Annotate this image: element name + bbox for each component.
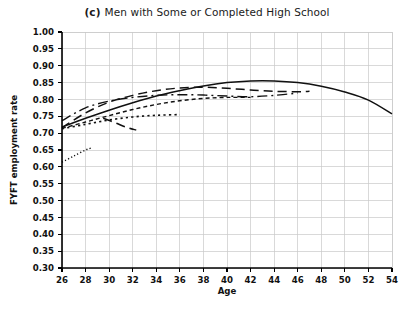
x-tick-label: 44 xyxy=(268,275,280,285)
x-tick-label: 28 xyxy=(80,275,92,285)
y-tick-label: 0.60 xyxy=(33,162,54,172)
y-tick-label: 0.80 xyxy=(33,95,54,105)
y-tick-label: 0.40 xyxy=(33,229,54,239)
y-tick-label: 0.35 xyxy=(33,246,54,256)
y-tick-label: 0.65 xyxy=(33,145,54,155)
series-line xyxy=(62,87,310,127)
y-tick-label: 1.00 xyxy=(33,27,54,37)
x-tick-label: 38 xyxy=(197,275,209,285)
y-tick-label: 0.75 xyxy=(33,111,54,121)
y-axis-label: FYFT employment rate xyxy=(9,95,19,205)
x-tick-label: 42 xyxy=(245,275,257,285)
y-tick-label: 0.50 xyxy=(33,196,54,206)
x-tick-label: 36 xyxy=(174,275,186,285)
y-tick-label: 0.55 xyxy=(33,179,54,189)
x-tick-label: 54 xyxy=(386,275,398,285)
y-tick-label: 0.70 xyxy=(33,128,54,138)
x-tick-label: 46 xyxy=(292,275,304,285)
chart-figure: (c)Men with Some or Completed High Schoo… xyxy=(0,0,414,310)
x-tick-label: 50 xyxy=(339,275,351,285)
y-tick-label: 0.85 xyxy=(33,78,54,88)
gridlines xyxy=(62,32,392,268)
y-tick-label: 0.45 xyxy=(33,213,54,223)
y-tick-label: 0.30 xyxy=(33,263,54,273)
y-tick-label: 0.95 xyxy=(33,44,54,54)
x-tick-label: 52 xyxy=(362,275,374,285)
x-tick-label: 48 xyxy=(315,275,327,285)
y-tick-labels: 1.000.950.900.850.800.750.700.650.600.55… xyxy=(33,27,54,273)
x-tick-label: 30 xyxy=(103,275,115,285)
tickmarks xyxy=(58,32,392,272)
y-tick-label: 0.90 xyxy=(33,61,54,71)
plot-area: 1.000.950.900.850.800.750.700.650.600.55… xyxy=(0,0,414,310)
x-tick-label: 32 xyxy=(127,275,139,285)
x-tick-label: 40 xyxy=(221,275,233,285)
x-tick-label: 34 xyxy=(150,275,162,285)
x-tick-label: 26 xyxy=(56,275,68,285)
series-line xyxy=(103,118,136,130)
x-axis-label: Age xyxy=(218,286,237,296)
x-tick-labels: 262830323436384042444648505254 xyxy=(56,275,398,285)
